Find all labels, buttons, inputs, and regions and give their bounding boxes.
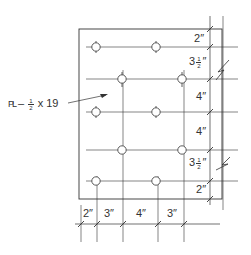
plate-thickness-fraction: 12 <box>28 98 33 111</box>
right-dim-3: 4″ <box>196 91 206 102</box>
hole <box>92 41 100 53</box>
hole <box>152 177 160 185</box>
hole <box>178 72 186 87</box>
plate-label: PL – 12 x 19 <box>8 98 58 111</box>
bottom-dim-4: 3″ <box>167 208 177 219</box>
bolt-holes <box>92 41 186 185</box>
plate-symbol: PL <box>8 99 15 109</box>
right-dim-5: 312″ <box>189 157 206 170</box>
bottom-dim-3: 4″ <box>136 208 146 219</box>
bottom-dim-1: 2″ <box>83 208 93 219</box>
break-symbol-top <box>216 60 229 80</box>
right-dim-4: 4″ <box>196 126 206 137</box>
hole <box>152 41 160 53</box>
plate-outline <box>79 29 222 199</box>
right-dim-1: 2″ <box>194 33 204 44</box>
leader-line <box>68 95 106 103</box>
hole <box>118 146 126 154</box>
hole <box>92 177 100 185</box>
hole <box>92 106 100 118</box>
hole <box>152 106 160 118</box>
plate-drawing <box>0 0 251 255</box>
hole <box>118 72 126 87</box>
leader-arrowhead <box>100 94 108 98</box>
right-dim-6: 2″ <box>196 184 206 195</box>
hole <box>178 146 186 154</box>
bottom-dim-2: 3″ <box>104 208 114 219</box>
right-dim-2: 312″ <box>189 56 206 69</box>
